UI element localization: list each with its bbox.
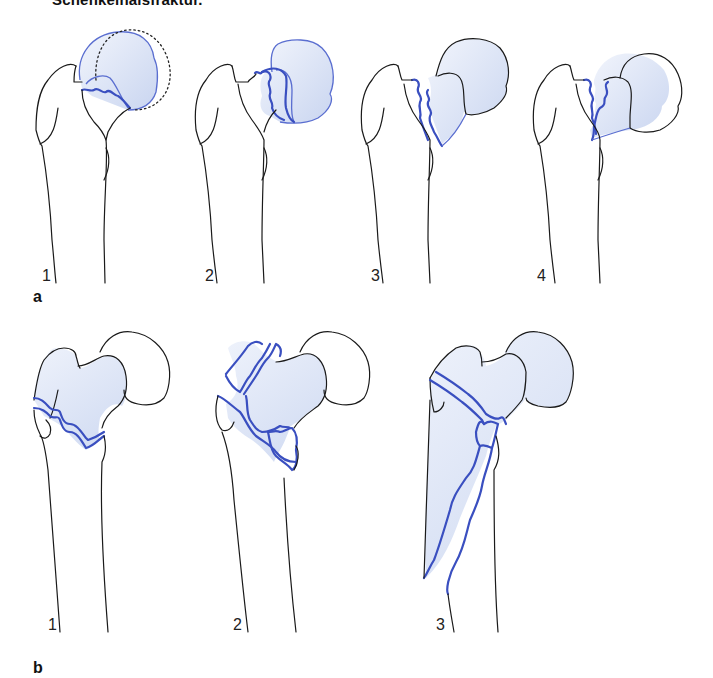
trochanter-ridge — [200, 108, 218, 144]
figure-number: 1 — [42, 267, 51, 284]
femur-medial-outline — [82, 90, 107, 283]
figure-a2: 2 — [195, 40, 333, 284]
femur-lateral-outline — [34, 410, 60, 632]
trochanter-ridge — [538, 108, 556, 144]
femur-medial-outline — [238, 84, 264, 283]
femur-medial-outline — [404, 84, 430, 283]
femur-lateral-outline-distal — [448, 594, 454, 632]
figure-a1: 1 — [36, 30, 170, 284]
figure-b1: 1 — [34, 332, 170, 633]
comminuted-fragments — [226, 341, 327, 462]
trochanter-ridge — [366, 108, 384, 144]
panel-label-b: b — [33, 659, 43, 676]
femoral-head-displaced — [260, 40, 333, 123]
figure-number: 4 — [537, 267, 546, 284]
greater-trochanter-top — [232, 66, 256, 82]
femur-lateral-outline — [195, 65, 232, 283]
greater-trochanter-top — [570, 66, 584, 80]
panel-label-a: a — [33, 288, 42, 305]
femoral-head-fragment — [428, 39, 508, 144]
figure-a3: 3 — [361, 39, 508, 284]
femur-lateral-outline — [361, 65, 398, 283]
figure-b2: 2 — [216, 332, 370, 633]
trochanter-fragment-outline — [40, 420, 51, 438]
figure-a4: 4 — [533, 54, 681, 284]
trochanter-ridge — [40, 108, 58, 144]
femur-medial-outline — [494, 436, 499, 632]
figure-number: 3 — [436, 616, 445, 633]
figure-b3: 3 — [424, 332, 573, 633]
figure-number: 2 — [233, 616, 242, 633]
figure-number: 2 — [205, 267, 214, 284]
femur-fracture-diagram: 1 2 3 — [0, 0, 713, 678]
trochanteric-fragment — [34, 348, 127, 450]
greater-trochanter-top — [398, 66, 412, 80]
figure-number: 3 — [371, 267, 380, 284]
femur-medial-outline — [284, 478, 296, 632]
femur-lateral-outline — [36, 65, 76, 283]
femur-lateral-outline — [533, 65, 570, 283]
femur-lateral-outline — [222, 432, 248, 632]
figure-number: 1 — [48, 616, 57, 633]
neck-inferior — [106, 108, 130, 140]
femur-medial-outline — [101, 436, 108, 632]
